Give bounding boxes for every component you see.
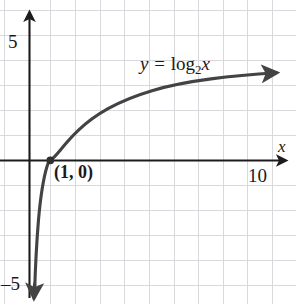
grid-lines bbox=[0, 0, 296, 304]
x-axis-tick-label-10: 10 bbox=[248, 166, 267, 185]
point-annotation-label: (1, 0) bbox=[54, 163, 93, 181]
y-axis-tick-label-minus-5: –5 bbox=[1, 274, 20, 293]
graph-canvas bbox=[0, 0, 296, 304]
equation-equals-symbol: = bbox=[153, 53, 166, 74]
equation-argument-symbol: x bbox=[201, 53, 209, 74]
equation-y-symbol: y bbox=[140, 53, 148, 74]
log-curve bbox=[35, 73, 277, 292]
log-graph-figure: 5 –5 10 x (1, 0) y = log2x bbox=[0, 0, 296, 304]
curve-equation-label: y = log2x bbox=[140, 54, 210, 73]
x-axis-name-label: x bbox=[278, 138, 286, 155]
equation-log-function: log bbox=[171, 53, 195, 74]
log-curve-tail-arrow bbox=[34, 284, 35, 298]
y-axis-tick-label-5: 5 bbox=[8, 32, 18, 51]
